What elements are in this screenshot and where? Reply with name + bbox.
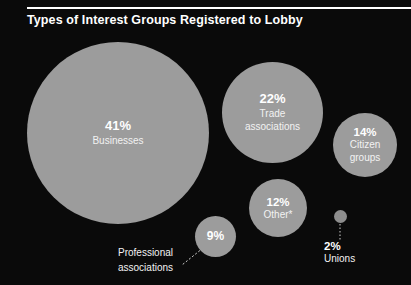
- callout-unions-label: Unions: [324, 253, 355, 265]
- bubble-other-value: 12%: [266, 196, 289, 208]
- bubble-businesses-label: Businesses: [92, 135, 143, 147]
- callout-professional-label-line1: Professional: [118, 246, 173, 261]
- bubble-trade-label-line2: associations: [245, 121, 300, 133]
- bubble-citizen-value: 14%: [353, 126, 376, 138]
- bubble-trade-label-line1: Trade: [260, 108, 286, 120]
- bubble-professional-associations[interactable]: 9%: [195, 216, 236, 257]
- bubble-other-label: Other*: [264, 209, 293, 221]
- callout-unions-value: 2%: [324, 240, 355, 253]
- bubble-chart-figure: Types of Interest Groups Registered to L…: [0, 0, 411, 285]
- bubble-citizen-label-line1: Citizen: [350, 139, 381, 151]
- bubble-citizen-groups[interactable]: 14% Citizen groups: [333, 113, 397, 177]
- bubble-businesses[interactable]: 41% Businesses: [27, 42, 209, 224]
- bubble-trade-associations[interactable]: 22% Trade associations: [222, 62, 323, 163]
- bubble-other[interactable]: 12% Other*: [249, 179, 307, 237]
- bubble-trade-value: 22%: [259, 92, 285, 106]
- bubble-unions[interactable]: [334, 210, 347, 223]
- bubble-citizen-label-line2: groups: [350, 152, 381, 164]
- callout-professional-label-line2: associations: [118, 261, 173, 276]
- callout-professional-associations: Professional associations: [118, 246, 173, 275]
- bubble-businesses-value: 41%: [105, 119, 131, 133]
- bubble-professional-value: 9%: [207, 230, 224, 243]
- callout-unions: 2% Unions: [324, 240, 355, 265]
